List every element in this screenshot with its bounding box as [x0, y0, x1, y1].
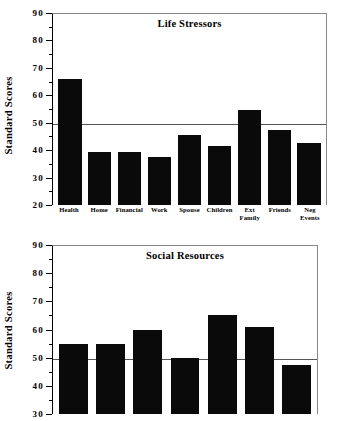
- chart1-bar-series: [53, 14, 326, 205]
- chart2-plot-area: Social Resources: [52, 245, 318, 414]
- bar: [178, 135, 201, 205]
- bar-slot: [278, 246, 315, 414]
- y-tick-label: 90: [33, 8, 44, 18]
- bar: [238, 110, 261, 205]
- y-tick-label: 90: [33, 240, 44, 250]
- bar: [171, 358, 200, 414]
- bar: [118, 152, 141, 205]
- bar: [268, 130, 291, 205]
- y-tick-label: 30: [33, 409, 44, 419]
- bar-slot: [145, 14, 175, 205]
- bar: [96, 344, 125, 414]
- x-tick-label: Health: [54, 206, 84, 221]
- bar: [208, 146, 231, 205]
- y-tick-label: 30: [33, 173, 44, 183]
- bar-slot: [55, 14, 85, 205]
- y-tick-label: 50: [33, 118, 44, 128]
- bar-slot: [241, 246, 278, 414]
- bar-slot: [115, 14, 145, 205]
- y-tick-label: 40: [33, 381, 44, 391]
- chart-life-stressors: Standard Scores 9080706050403020 Life St…: [0, 0, 346, 225]
- bar-slot: [234, 14, 264, 205]
- y-tick-label: 40: [33, 145, 44, 155]
- y-tick-label: 80: [33, 35, 44, 45]
- y-tick-label: 70: [33, 63, 44, 73]
- x-tick-label: Children: [205, 206, 235, 221]
- bar-slot: [264, 14, 294, 205]
- y-tick-label: 20: [33, 200, 44, 210]
- bar: [297, 143, 320, 205]
- y-tick-label: 50: [33, 353, 44, 363]
- bar-slot: [55, 246, 92, 414]
- bar-slot: [92, 246, 129, 414]
- x-tick-label: Financial: [114, 206, 144, 221]
- x-tick-label: ExtFamily: [235, 206, 265, 221]
- bar: [133, 330, 162, 415]
- x-tick-label: NegEvents: [295, 206, 325, 221]
- chart1-y-axis-ticks: 9080706050403020: [24, 0, 52, 215]
- chart1-y-axis-title: Standard Scores: [0, 55, 16, 175]
- bar: [245, 327, 274, 414]
- y-tick-label: 80: [33, 268, 44, 278]
- bar-slot: [204, 14, 234, 205]
- chart2-bar-series: [53, 246, 317, 414]
- y-tick-label: 60: [33, 325, 44, 335]
- bar: [59, 344, 88, 414]
- bar-slot: [166, 246, 203, 414]
- bar: [148, 157, 171, 205]
- chart1-y-axis-title-text: Standard Scores: [3, 76, 14, 154]
- y-tick-major: [46, 414, 52, 415]
- bar: [58, 79, 81, 205]
- bar: [208, 315, 237, 414]
- bar-slot: [294, 14, 324, 205]
- chart1-plot-area: Life Stressors: [52, 13, 327, 205]
- y-tick-label: 60: [33, 90, 44, 100]
- x-tick-label: Friends: [265, 206, 295, 221]
- chart2-y-axis-title-text: Standard Scores: [3, 291, 14, 369]
- bar: [282, 365, 311, 414]
- x-tick-label: Home: [84, 206, 114, 221]
- chart1-x-axis-labels: HealthHomeFinancialWorkSpouseChildrenExt…: [52, 206, 327, 221]
- y-tick-label: 70: [33, 296, 44, 306]
- chart-social-resources: Standard Scores 90807060504030 Social Re…: [0, 225, 346, 414]
- chart2-y-axis-title: Standard Scores: [0, 270, 16, 390]
- chart2-y-axis-ticks: 90807060504030: [24, 225, 52, 421]
- bar-slot: [204, 246, 241, 414]
- bar-slot: [175, 14, 205, 205]
- bar-slot: [129, 246, 166, 414]
- x-tick-label: Spouse: [174, 206, 204, 221]
- bar: [88, 152, 111, 205]
- bar-slot: [85, 14, 115, 205]
- x-tick-label: Work: [144, 206, 174, 221]
